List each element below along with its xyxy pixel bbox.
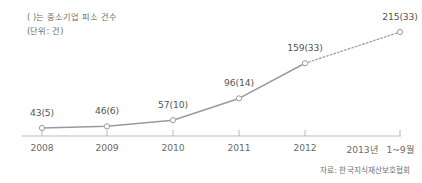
data-point-marker [236, 96, 241, 101]
data-point-marker [170, 118, 175, 123]
x-axis-label: 1~9월 [387, 142, 414, 156]
data-point-label: 43(5) [30, 107, 54, 118]
data-point-label: 215(33) [382, 11, 418, 22]
data-point-marker [104, 124, 109, 129]
x-axis-label: 2013년 [347, 142, 378, 156]
x-axis-label: 2012 [294, 142, 317, 153]
data-point-label: 159(33) [287, 42, 323, 53]
x-axis-label: 2008 [31, 142, 54, 153]
source-note: 자료: 한국지식재산보호협회 [320, 164, 410, 175]
data-point-label: 96(14) [224, 77, 254, 88]
data-point-markers [39, 29, 402, 130]
data-point-marker [397, 29, 402, 34]
data-point-label: 46(6) [95, 105, 119, 116]
x-axis-ticks [42, 130, 400, 136]
x-axis-label: 2009 [96, 142, 119, 153]
chart-page: ( )는 중소기업 피소 건수 (단위: 건) 43(5)46(6)57(10)… [0, 0, 422, 183]
data-point-label: 57(10) [158, 99, 188, 110]
x-axis-label: 2011 [228, 142, 251, 153]
x-axis-label: 2010 [162, 142, 185, 153]
data-point-marker [302, 61, 307, 66]
data-point-marker [39, 125, 44, 130]
